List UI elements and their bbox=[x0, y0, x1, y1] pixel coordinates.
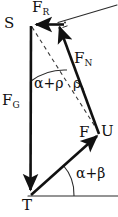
angle-label-alpha-plus-rho: α+ρ bbox=[34, 76, 63, 90]
vector-label-f-r-base: F bbox=[32, 0, 42, 16]
right-angle-mark bbox=[63, 26, 68, 28]
vector-label-f-g: FG bbox=[2, 93, 20, 108]
right-angle-dot bbox=[64, 22, 66, 24]
vector-label-f-n-sub: N bbox=[84, 58, 92, 68]
vector-label-f: F bbox=[79, 125, 89, 140]
point-label-s: S bbox=[4, 16, 14, 31]
vector-f-g bbox=[31, 26, 32, 190]
angle-label-alpha-plus-beta: α+β bbox=[76, 166, 105, 180]
point-label-u-text: U bbox=[101, 122, 114, 140]
point-label-t: T bbox=[22, 198, 32, 213]
vector-label-f-n: FN bbox=[74, 51, 92, 66]
vector-label-f-n-base: F bbox=[74, 49, 84, 67]
vector-label-f-r: FR bbox=[32, 0, 49, 15]
inclined-surface-line bbox=[58, 5, 117, 23]
force-vector-diagram: S T U FR FG FN F α+ρ ρ α+β bbox=[0, 0, 118, 217]
vector-label-f-g-base: F bbox=[2, 91, 12, 109]
point-label-u: U bbox=[101, 124, 114, 139]
vector-label-f-r-sub: R bbox=[42, 7, 49, 17]
angle-label-rho: ρ bbox=[73, 76, 81, 90]
vector-label-f-g-sub: G bbox=[12, 100, 19, 110]
angle-arc-alpha-plus-beta bbox=[63, 165, 74, 196]
